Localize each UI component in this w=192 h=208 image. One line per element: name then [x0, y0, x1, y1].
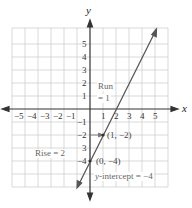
- x-tick-label: 3: [127, 112, 132, 121]
- y-tick-label: −1: [77, 118, 87, 127]
- y-axis-arrow-down-icon: [88, 193, 93, 200]
- y-tick-label: −2: [77, 131, 87, 140]
- x-axis-arrow-left-icon: [2, 107, 9, 112]
- y-axis-arrow-up-icon: [88, 20, 93, 27]
- x-axis-arrow-right-icon: [171, 107, 178, 112]
- x-tick-label: −2: [53, 112, 63, 121]
- y-tick-label: 4: [82, 53, 87, 62]
- x-tick-label: −1: [66, 112, 76, 121]
- y-tick-label: 5: [82, 40, 87, 49]
- rise-label: Rise = 2: [34, 149, 66, 158]
- y-intercept-label-text: -intercept = −4: [99, 171, 153, 181]
- x-tick-label: −3: [40, 112, 50, 121]
- point-1-neg2: [101, 133, 104, 136]
- x-tick-label: 1: [101, 112, 106, 121]
- y-axis-label: y: [86, 5, 91, 16]
- x-tick-label: 5: [153, 112, 158, 121]
- y-tick-label: 3: [82, 66, 87, 75]
- line-arrow-top-icon: [152, 29, 157, 37]
- point-0-neg4: [88, 159, 91, 162]
- y-tick-label: −4: [77, 157, 87, 166]
- x-tick-label: 2: [114, 112, 119, 121]
- y-tick-label: 3: [82, 144, 87, 153]
- y-tick-label: 1: [82, 92, 87, 101]
- coordinate-plane: y x −5 −4 −3 −2 −1 1 2 3 4 5 5 4 3 2 1 −…: [0, 0, 192, 208]
- x-tick-label: −5: [14, 112, 24, 121]
- x-axis-label: x: [182, 103, 187, 114]
- y-intercept-label: y-intercept = −4: [94, 172, 154, 181]
- run-label: Run: [97, 82, 114, 91]
- point-label-1-neg2: (1, −2): [107, 131, 132, 140]
- point-label-0-neg4: (0, −4): [96, 157, 121, 166]
- x-tick-label: 4: [140, 112, 145, 121]
- run-value-label: = 1: [97, 94, 111, 103]
- x-tick-label: −4: [27, 112, 37, 121]
- y-tick-label: 2: [82, 79, 87, 88]
